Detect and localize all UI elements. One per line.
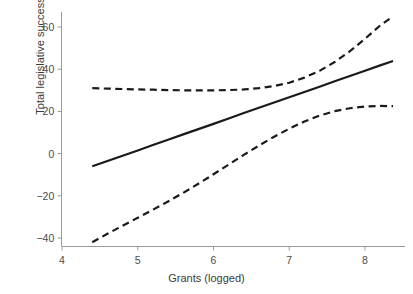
- y-tick-label: −20: [36, 190, 54, 202]
- x-tick-label: 8: [362, 254, 368, 266]
- y-axis-title: Total legislative success: [34, 0, 50, 136]
- y-tick-label: −40: [36, 232, 54, 244]
- x-axis-ticks: [62, 247, 365, 251]
- x-tick-label: 7: [286, 254, 292, 266]
- lower-confidence-line: [92, 106, 393, 242]
- y-axis-title-wrap: Total legislative success: [14, 48, 30, 208]
- x-tick-label: 4: [59, 254, 65, 266]
- y-axis-ticks: [58, 27, 62, 238]
- chart-figure: −40−200204060 45678 Total legislative su…: [0, 0, 413, 294]
- y-tick-label: 0: [49, 148, 55, 160]
- data-series-group: [92, 16, 393, 242]
- plot-area: [0, 0, 413, 294]
- x-tick-label: 5: [135, 254, 141, 266]
- prediction-line: [92, 61, 393, 166]
- upper-confidence-line: [92, 16, 393, 90]
- x-axis-title: Grants (logged): [0, 272, 413, 284]
- x-tick-label: 6: [211, 254, 217, 266]
